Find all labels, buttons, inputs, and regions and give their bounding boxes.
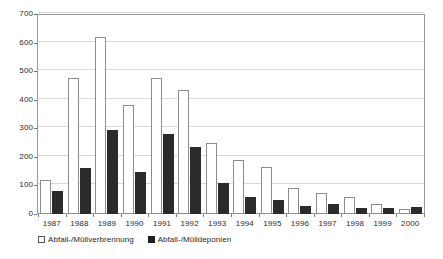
x-axis-tick-mark [38,214,39,217]
bar [399,209,410,214]
bar [218,183,229,214]
x-axis-tick-mark [286,214,287,217]
bar [80,168,91,214]
x-axis-tick-label: 1995 [259,219,287,228]
x-axis-tick-mark [231,214,232,217]
y-axis-tick-label: 300 [3,124,33,132]
y-axis-tick-label: 400 [3,96,33,104]
x-axis-tick-label: 1992 [176,219,204,228]
bar [371,204,382,214]
x-axis-tick-label: 1990 [121,219,149,228]
x-axis-tick-label: 1987 [38,219,66,228]
bar [300,206,311,214]
bar [95,37,106,214]
bar-group [286,14,314,214]
x-axis-tick-mark [314,214,315,217]
bar [151,78,162,214]
bar-group [396,14,424,214]
bar [178,90,189,214]
legend-swatch-icon [38,236,45,243]
legend-item-label: Abfall-/Mülldeponien [158,235,232,244]
bar [344,197,355,214]
bar-group [148,14,176,214]
bar-group [176,14,204,214]
x-axis-tick-label: 1998 [341,219,369,228]
x-axis-tick-label: 1994 [231,219,259,228]
x-axis-tick-label: 1996 [286,219,314,228]
bar [190,147,201,214]
x-axis-tick-mark [121,214,122,217]
bar-group [38,14,66,214]
y-axis-tick-label: 0 [3,210,33,218]
y-axis-tick-label: 500 [3,67,33,75]
bar-group [66,14,94,214]
bar [40,180,51,214]
x-axis-tick-mark [424,214,425,217]
x-axis-tick-label: 1997 [314,219,342,228]
x-axis-tick-label: 2000 [396,219,424,228]
bar [68,78,79,214]
bar-group [93,14,121,214]
bar [245,197,256,214]
y-axis-tick-label: 600 [3,39,33,47]
x-axis-tick-mark [176,214,177,217]
bar-chart: 0100200300400500600700 19871988198919901… [0,0,443,259]
legend-item: Abfall-/Mülldeponien [148,235,232,244]
bar [135,172,146,214]
legend-swatch-icon [148,236,155,243]
bar [107,130,118,214]
bar [261,167,272,214]
bar [163,134,174,214]
bar-group [203,14,231,214]
bar-group [314,14,342,214]
bar [206,143,217,214]
bar-group [259,14,287,214]
bar [288,188,299,214]
legend-item-label: Abfall-/Müllverbrennung [48,235,134,244]
x-axis-tick-label: 1991 [148,219,176,228]
bar [233,160,244,214]
y-axis-tick-label: 100 [3,181,33,189]
bar [316,193,327,214]
bar-group [341,14,369,214]
x-axis-tick-label: 1993 [203,219,231,228]
bar [52,191,63,214]
bar [328,204,339,214]
bar-group [231,14,259,214]
bars-layer [38,14,424,214]
y-axis-tick-mark [34,214,37,215]
x-axis-tick-label: 1988 [66,219,94,228]
y-axis-tick-label: 700 [3,10,33,18]
x-axis-tick-label: 1999 [369,219,397,228]
bar-group [369,14,397,214]
bar [123,105,134,214]
bar [356,208,367,214]
x-axis-tick-mark [341,214,342,217]
x-axis-tick-label: 1989 [93,219,121,228]
bar [383,208,394,214]
x-axis-tick-mark [93,214,94,217]
y-axis-tick-label: 200 [3,153,33,161]
x-axis-tick-mark [259,214,260,217]
bar [411,207,422,214]
legend-item: Abfall-/Müllverbrennung [38,235,134,244]
x-axis-tick-mark [369,214,370,217]
x-axis-tick-mark [203,214,204,217]
chart-legend: Abfall-/MüllverbrennungAbfall-/Mülldepon… [38,235,231,244]
x-axis-tick-mark [148,214,149,217]
gridline-700 [38,12,424,13]
bar-group [121,14,149,214]
x-axis-tick-mark [66,214,67,217]
bar [273,200,284,214]
x-axis-tick-mark [396,214,397,217]
